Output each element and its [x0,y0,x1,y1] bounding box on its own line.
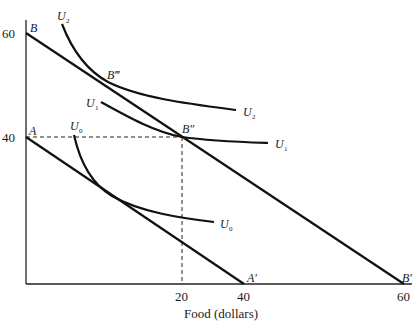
label-u2-top: U 2 [57,9,70,25]
x-tick-20: 20 [175,289,188,304]
budget-line-aa [26,137,244,284]
y-tick-60: 60 [2,26,15,41]
label-u1-end: U 1 [275,137,288,153]
x-axis-label: Food (dollars) [184,306,258,321]
svg-text:1: 1 [284,145,288,153]
label-u0-end: U 0 [220,217,233,233]
label-b: B [30,21,38,35]
label-a-prime: A′ [246,271,257,285]
y-tick-40: 40 [2,130,15,145]
budget-line-bb [26,33,404,284]
x-tick-40: 40 [237,289,250,304]
label-b-double-prime: B″ [182,122,195,136]
svg-text:2: 2 [66,17,70,25]
svg-text:0: 0 [229,225,233,233]
svg-text:0: 0 [79,127,83,135]
svg-text:2: 2 [252,113,256,121]
label-u2-end: U 2 [243,105,256,121]
svg-text:1: 1 [95,104,99,112]
indifference-curve-u0 [74,135,214,222]
label-u0-top: U 0 [70,119,83,135]
indifference-curve-diagram: 60 40 20 40 60 Food (dollars) B A A′ B′ … [0,0,419,325]
label-b-prime: B′ [402,271,412,285]
label-u1-start: U 1 [86,96,99,112]
label-a: A [28,124,37,138]
x-tick-60: 60 [397,289,410,304]
label-b-triple-prime: B‴ [107,68,120,82]
